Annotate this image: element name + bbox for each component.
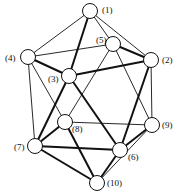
edge-3-6 — [69, 76, 120, 150]
node-label-10: (10) — [107, 178, 122, 188]
node-3 — [62, 69, 77, 84]
node-label-7: (7) — [14, 142, 25, 152]
edge-2-6 — [120, 60, 151, 150]
node-2 — [144, 53, 159, 68]
node-label-8: (8) — [72, 124, 83, 134]
edge-1-4 — [28, 11, 90, 57]
node-8 — [58, 115, 73, 130]
node-label-1: (1) — [102, 5, 113, 15]
node-label-4: (4) — [5, 53, 16, 63]
edge-3-7 — [35, 76, 69, 146]
node-label-2: (2) — [162, 55, 173, 65]
edge-2-9 — [151, 60, 152, 125]
node-10 — [90, 176, 105, 191]
icosahedron-diagram: (1)(2)(3)(4)(5)(6)(7)(8)(9)(10) — [0, 0, 177, 195]
edge-4-8 — [28, 57, 65, 122]
node-label-9: (9) — [162, 120, 173, 130]
node-5 — [106, 37, 121, 52]
node-label-6: (6) — [128, 152, 139, 162]
edge-4-7 — [28, 57, 35, 146]
edge-3-2 — [69, 60, 151, 76]
node-label-3: (3) — [48, 74, 59, 84]
edge-1-3 — [69, 11, 90, 76]
node-label-5: (5) — [96, 35, 107, 45]
node-1 — [83, 4, 98, 19]
graph-canvas: (1)(2)(3)(4)(5)(6)(7)(8)(9)(10) — [0, 0, 177, 195]
node-9 — [145, 118, 160, 133]
edge-4-5 — [28, 44, 113, 57]
node-7 — [28, 139, 43, 154]
node-6 — [113, 143, 128, 158]
node-4 — [21, 50, 36, 65]
node-labels: (1)(2)(3)(4)(5)(6)(7)(8)(9)(10) — [5, 5, 173, 188]
